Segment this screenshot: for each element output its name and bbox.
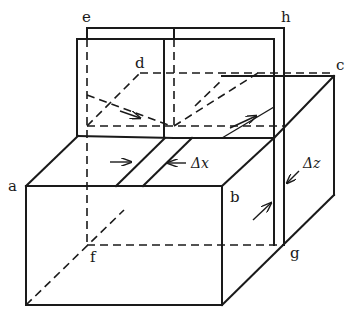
- dx-slab: [110, 138, 192, 186]
- flow-arrows: [120, 107, 299, 220]
- back-plane-front: [77, 39, 274, 245]
- block-diagram: Δx a b c d e f g h Δz: [0, 0, 349, 316]
- label-h: h: [281, 8, 291, 26]
- label-d: d: [135, 54, 145, 72]
- label-dz: Δz: [302, 155, 321, 171]
- label-b: b: [230, 188, 240, 206]
- label-dx: Δx: [190, 155, 209, 171]
- label-g: g: [290, 244, 300, 262]
- hidden-edges: [26, 39, 334, 305]
- label-e: e: [82, 8, 91, 26]
- label-f: f: [90, 248, 97, 266]
- label-c: c: [336, 56, 344, 74]
- label-a: a: [8, 177, 17, 195]
